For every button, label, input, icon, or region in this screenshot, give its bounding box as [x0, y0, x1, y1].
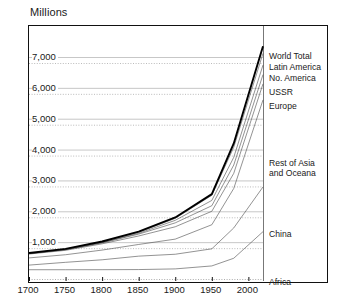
x-tick-label: 1750 — [54, 284, 75, 295]
y-tick-label: 3,000 — [32, 174, 58, 185]
legend-label-africa: Africa — [269, 277, 291, 287]
legend-label-line: Europe — [269, 101, 297, 111]
x-tick-label: 1950 — [200, 284, 221, 295]
x-tick-label: 1850 — [127, 284, 148, 295]
legend-label-line: USSR — [269, 87, 293, 97]
legend-label-line: Africa — [269, 277, 291, 287]
x-tick-label: 2000 — [237, 284, 258, 295]
chart-root: Millions 1,0002,0003,0004,0005,0006,0007… — [0, 0, 342, 308]
y-axis-unit-label: Millions — [30, 6, 67, 18]
legend-label-world-total: World Total — [269, 51, 312, 61]
series-line — [29, 46, 263, 253]
y-tick-label: 7,000 — [32, 51, 58, 62]
legend-label-line: Latin America — [269, 62, 321, 72]
x-tick-label: 1900 — [164, 284, 185, 295]
legend-label-latin-america: Latin America — [269, 62, 321, 72]
y-tick-label: 2,000 — [32, 205, 58, 216]
y-tick-label: 6,000 — [32, 81, 58, 92]
legend-label-europe: Europe — [269, 101, 297, 111]
legend-label-rest-of-asia-and-oceana: Rest of Asiaand Oceana — [269, 159, 316, 178]
y-tick-label: 1,000 — [32, 236, 58, 247]
x-tick-label: 1700 — [17, 284, 38, 295]
y-tick-label: 4,000 — [32, 143, 58, 154]
x-tick-label: 1800 — [91, 284, 112, 295]
legend-label-no-america: No. America — [269, 73, 316, 83]
legend-label-line: World Total — [269, 51, 312, 61]
legend-label-line: China — [269, 229, 291, 239]
legend-label-line: and Oceana — [269, 169, 316, 179]
series-line — [29, 53, 263, 253]
legend-label-line: No. America — [269, 73, 316, 83]
legend-label-china: China — [269, 229, 291, 239]
legend-label-ussr: USSR — [269, 87, 293, 97]
series-line — [29, 75, 263, 254]
y-tick-label: 5,000 — [32, 112, 58, 123]
